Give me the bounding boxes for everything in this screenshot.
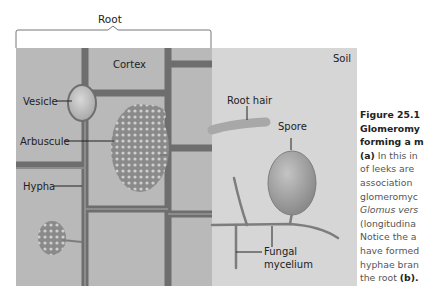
arbuscule-large <box>111 104 169 192</box>
figure-caption: Figure 25.1 Glomeromy forming a m (a) In… <box>360 108 425 285</box>
caption-line: forming a m <box>360 136 424 147</box>
soil-label: Soil <box>333 53 351 64</box>
caption-marker-a: (a) <box>360 150 375 161</box>
hypha-label: Hypha <box>23 181 55 192</box>
caption-line: the root <box>360 272 397 283</box>
caption-line: glomeromyc <box>360 191 418 202</box>
caption-line: In this in <box>378 150 418 161</box>
root-label: Root <box>98 14 122 25</box>
caption-line: (longitudina <box>360 218 416 229</box>
fungal-mycelium-label-2: mycelium <box>264 259 313 270</box>
caption-line: Glomus vers <box>360 204 418 215</box>
fungal-mycelium-label-1: Fungal <box>264 246 297 257</box>
vesicle-label: Vesicle <box>23 96 58 107</box>
caption-line: of leeks are <box>360 163 414 174</box>
caption-marker-b: (b). <box>400 272 419 283</box>
vesicle <box>68 85 96 121</box>
caption-line: Glomeromy <box>360 123 420 134</box>
root-bracket <box>16 26 211 48</box>
caption-line: have formed <box>360 245 419 256</box>
cortex-label: Cortex <box>113 59 146 70</box>
arbuscule-label: Arbuscule <box>20 136 70 147</box>
figure-number: Figure 25.1 <box>360 109 420 120</box>
caption-line: Notice the a <box>360 231 417 242</box>
root-hair-label: Root hair <box>227 95 272 106</box>
spore <box>268 151 316 215</box>
caption-line: hyphae bran <box>360 259 419 270</box>
caption-line: association <box>360 177 412 188</box>
spore-label: Spore <box>278 121 307 132</box>
